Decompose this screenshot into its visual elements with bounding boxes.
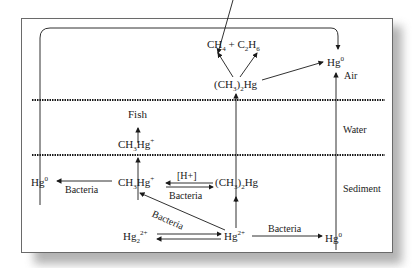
node-mercurous-ion: Hg22+: [123, 230, 147, 242]
node-ch4-c2h6: CH4 + C2H6: [207, 38, 260, 50]
label-bacteria-mid: Bacteria: [169, 190, 202, 201]
node-methylmercury-sediment: CH3Hg+: [118, 176, 154, 188]
node-hg0-sediment-left: Hg0: [31, 176, 48, 188]
label-bacteria-right: Bacteria: [268, 223, 301, 234]
node-methylmercury-water: CH3Hg+: [118, 138, 154, 150]
node-hg0-sediment-right: Hg0: [325, 232, 342, 244]
node-dimethylmercury-air: (CH3)2Hg: [214, 78, 257, 90]
node-mercuric-ion: Hg2+: [224, 230, 245, 242]
zone-water-label: Water: [343, 124, 367, 135]
node-fish: Fish: [128, 108, 147, 120]
zone-air-label: Air: [344, 70, 357, 81]
label-h-plus: [H+]: [177, 170, 197, 181]
node-hg0-air: Hg0: [327, 56, 344, 68]
node-dimethylmercury-sediment: (CH3)2Hg: [215, 176, 258, 188]
zone-sediment-label: Sediment: [343, 183, 381, 194]
label-bacteria-left: Bacteria: [65, 184, 98, 195]
